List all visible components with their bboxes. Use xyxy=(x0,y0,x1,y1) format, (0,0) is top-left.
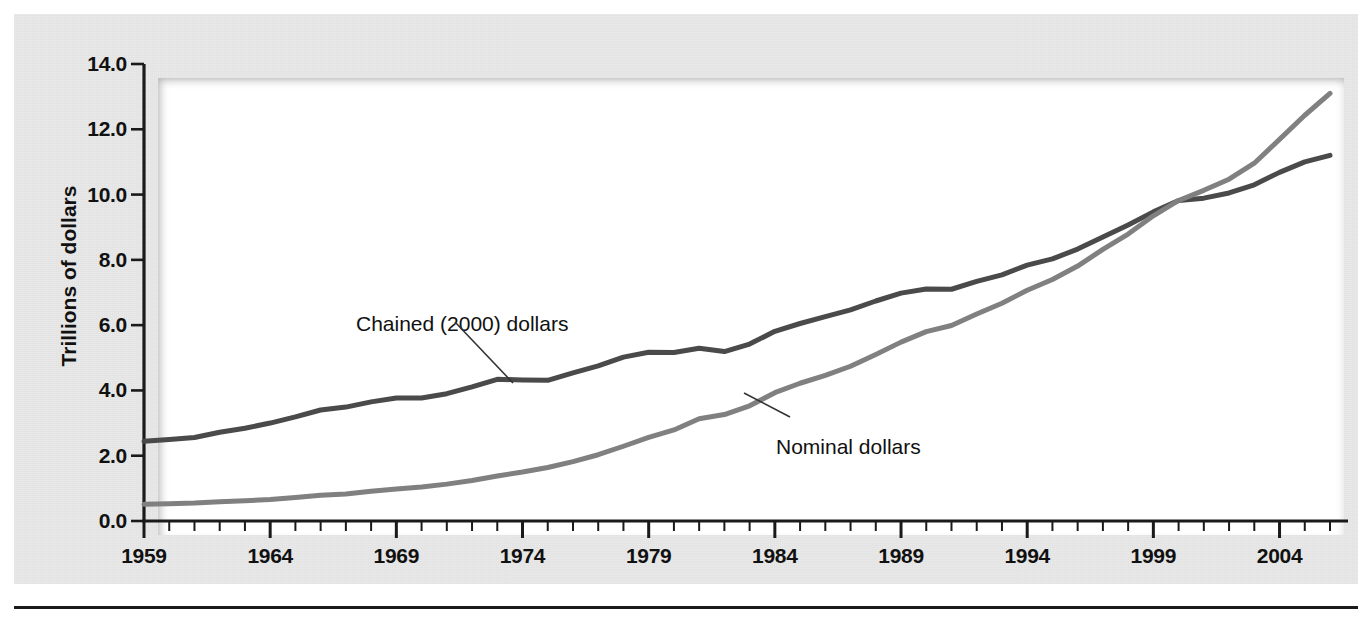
x-tick-label: 1959 xyxy=(99,544,189,568)
x-tick-label: 1984 xyxy=(730,544,820,568)
x-tick-label: 1989 xyxy=(856,544,946,568)
figure-panel: Trillions of dollars 14.012.010.08.06.04… xyxy=(14,14,1358,584)
y-tick-label: 0.0 xyxy=(35,509,127,533)
x-tick-label: 1964 xyxy=(225,544,315,568)
x-tick-label: 2004 xyxy=(1235,544,1325,568)
y-tick-label: 8.0 xyxy=(35,248,127,272)
y-tick-label: 10.0 xyxy=(35,183,127,207)
y-tick-label: 14.0 xyxy=(35,52,127,76)
x-tick-label: 1994 xyxy=(982,544,1072,568)
series-annotation-nominal: Nominal dollars xyxy=(776,435,921,459)
y-tick-label: 2.0 xyxy=(35,444,127,468)
x-tick-label: 1974 xyxy=(478,544,568,568)
x-tick-label: 1979 xyxy=(604,544,694,568)
x-tick-label: 1969 xyxy=(351,544,441,568)
y-tick-label: 4.0 xyxy=(35,378,127,402)
plot-area xyxy=(158,78,1344,535)
series-annotation-chained: Chained (2000) dollars xyxy=(356,312,568,336)
bottom-rule xyxy=(14,606,1358,609)
x-tick-label: 1999 xyxy=(1108,544,1198,568)
y-tick-label: 12.0 xyxy=(35,117,127,141)
y-tick-label: 6.0 xyxy=(35,313,127,337)
